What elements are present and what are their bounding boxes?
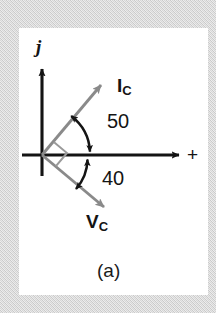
diagram-panel: j + IC VC 50 40 (a) (19, 28, 208, 295)
real-axis-label: + (187, 145, 198, 164)
phasor-ic (42, 85, 101, 155)
phasor-ic-line (42, 85, 101, 155)
phasor-vc-label-main: V (86, 211, 99, 232)
figure-caption: (a) (97, 261, 120, 280)
imaginary-axis-label: j (36, 37, 41, 56)
phasor-diagram-canvas (19, 28, 208, 295)
phasor-ic-label: IC (117, 76, 132, 97)
phasor-vc-label-subscript: C (99, 219, 108, 234)
phasor-vc (42, 155, 104, 207)
phasor-ic-label-subscript: C (122, 83, 131, 98)
angle-label-40: 40 (102, 168, 124, 188)
angle-label-50: 50 (107, 111, 129, 131)
phasor-vc-line (42, 155, 104, 207)
angle-arc-50-path (71, 116, 90, 152)
phasor-vc-label: VC (86, 212, 108, 233)
angle-arc-50 (71, 116, 90, 152)
figure-root: j + IC VC 50 40 (a) (0, 0, 216, 313)
